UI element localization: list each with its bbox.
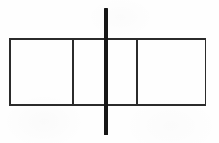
- thick-vertical-bar: [104, 8, 108, 135]
- cell-divider-2: [136, 38, 138, 106]
- rectangle-right-edge: [205, 38, 207, 106]
- diagram-canvas: [0, 0, 219, 143]
- cell-divider-1: [72, 38, 74, 106]
- paper-texture: [0, 0, 219, 143]
- rectangle-left-edge: [9, 38, 11, 106]
